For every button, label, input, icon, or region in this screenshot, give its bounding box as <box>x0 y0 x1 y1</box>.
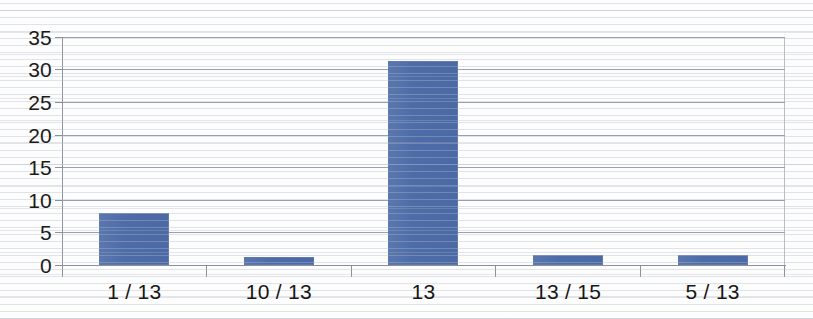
x-axis-category-label: 13 / 15 <box>496 281 641 302</box>
x-axis-tick-mark <box>495 266 496 277</box>
bar-chart: 35 30 25 20 15 10 5 0 <box>0 0 813 319</box>
x-axis-tick-mark <box>62 266 63 277</box>
y-axis-tick-mark <box>55 69 63 70</box>
y-axis-labels: 35 30 25 20 15 10 5 0 <box>0 0 52 319</box>
x-axis-tick-mark <box>640 266 641 277</box>
x-axis-category-label: 13 <box>351 281 496 302</box>
x-axis-tick-mark <box>784 266 785 277</box>
y-axis-tick-mark <box>55 200 63 201</box>
y-axis-tick-label: 10 <box>8 190 52 211</box>
bar-1-13[interactable] <box>99 213 169 265</box>
x-axis-labels: 1 / 13 10 / 13 13 13 / 15 5 / 13 <box>62 281 785 302</box>
x-axis-line <box>62 265 786 266</box>
bar-cell <box>640 37 785 265</box>
y-axis-tick-mark <box>55 232 63 233</box>
x-axis-category-label: 1 / 13 <box>62 281 207 302</box>
y-axis-tick-mark <box>55 102 63 103</box>
bar-13[interactable] <box>388 61 458 265</box>
y-axis-tick-mark <box>55 135 63 136</box>
y-axis-tick-label: 0 <box>8 255 52 276</box>
y-axis-tick-label: 20 <box>8 125 52 146</box>
y-axis-tick-label: 35 <box>8 27 52 48</box>
y-axis-tick-mark <box>55 37 63 38</box>
bars-layer <box>62 37 785 265</box>
bar-cell <box>207 37 352 265</box>
bar-13-15[interactable] <box>533 255 603 265</box>
x-axis-category-label: 5 / 13 <box>640 281 785 302</box>
y-axis-tick-label: 5 <box>8 222 52 243</box>
x-axis-category-label: 10 / 13 <box>207 281 352 302</box>
x-axis-tick-mark <box>206 266 207 277</box>
y-axis-tick-mark <box>55 167 63 168</box>
bar-5-13[interactable] <box>678 255 748 265</box>
y-axis-tick-label: 15 <box>8 157 52 178</box>
bar-cell <box>496 37 641 265</box>
y-axis-tick-label: 25 <box>8 92 52 113</box>
y-axis-tick-label: 30 <box>8 59 52 80</box>
bar-10-13[interactable] <box>244 257 314 265</box>
bar-cell <box>62 37 207 265</box>
bar-cell <box>351 37 496 265</box>
x-axis-tick-mark <box>351 266 352 277</box>
plot-area <box>62 37 785 265</box>
